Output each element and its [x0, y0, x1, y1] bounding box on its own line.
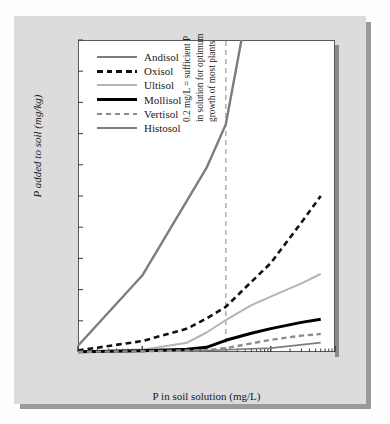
annotation-line: in solution for optimum	[195, 33, 205, 122]
chart-legend: AndisolOxisolUltisolMollisolVertisolHist…	[97, 50, 181, 135]
legend-label: Ultisol	[144, 79, 174, 91]
legend-swatch-icon	[97, 65, 137, 77]
legend-label: Mollisol	[144, 94, 181, 106]
legend-label: Histosol	[144, 122, 181, 134]
x-axis-title: P in soil solution (mg/L)	[78, 390, 335, 402]
legend-item-andisol[interactable]: Andisol	[97, 50, 181, 64]
legend-swatch-icon	[97, 94, 137, 106]
legend-label: Andisol	[144, 51, 179, 63]
y-axis-title-text: P added to soil (mg/kg)	[31, 94, 43, 197]
legend-item-histosol[interactable]: Histosol	[97, 121, 181, 135]
annotation-line: 0.2 mg/L = sufficient P	[182, 36, 192, 122]
legend-item-ultisol[interactable]: Ultisol	[97, 78, 181, 92]
series-line-ultisol	[78, 274, 321, 352]
legend-swatch-icon	[97, 122, 137, 134]
legend-swatch-icon	[97, 51, 137, 63]
legend-item-oxisol[interactable]: Oxisol	[97, 64, 181, 78]
legend-label: Vertisol	[144, 108, 178, 120]
legend-item-vertisol[interactable]: Vertisol	[97, 107, 181, 121]
y-axis-title: P added to soil (mg/kg)	[31, 46, 43, 246]
legend-swatch-icon	[97, 108, 137, 120]
legend-swatch-icon	[97, 79, 137, 91]
chart-page: P added to soil (mg/kg) P in soil soluti…	[0, 0, 390, 424]
legend-label: Oxisol	[144, 65, 173, 77]
legend-item-mollisol[interactable]: Mollisol	[97, 93, 181, 107]
annotation-line: growth of most plants	[207, 41, 217, 122]
